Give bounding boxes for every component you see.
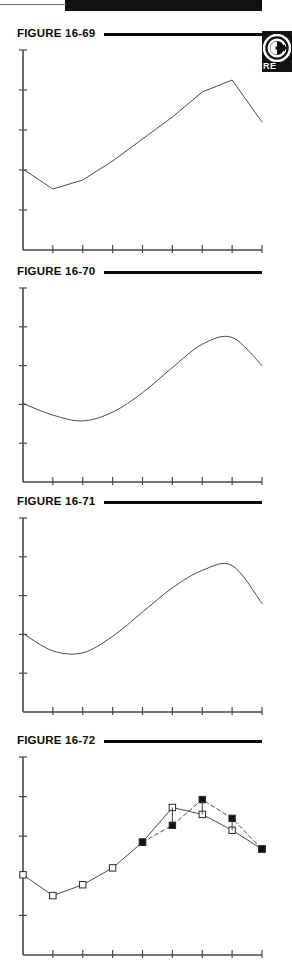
figure-header: FIGURE 16-69 — [17, 26, 292, 42]
circle-arrow-icon — [263, 34, 291, 62]
plot-canvas — [0, 512, 292, 730]
figure-plot — [0, 751, 292, 960]
figure-rule — [104, 740, 262, 743]
series-line — [23, 80, 262, 189]
series-line — [23, 807, 262, 895]
figure-label: FIGURE 16-70 — [17, 266, 95, 278]
plot-canvas — [0, 751, 292, 960]
data-point-open-square — [109, 865, 115, 871]
figure-rule — [104, 501, 262, 504]
series-line — [23, 563, 262, 654]
figure-block: FIGURE 16-72 — [0, 733, 292, 960]
figure-plot — [0, 282, 292, 500]
figure-header: FIGURE 16-71 — [17, 494, 292, 510]
figure-plot — [0, 512, 292, 730]
figure-header: FIGURE 16-72 — [17, 733, 292, 749]
figure-block: FIGURE 16-71 — [0, 494, 292, 730]
figure-rule — [104, 271, 262, 274]
figure-block: FIGURE 16-69 — [0, 26, 292, 268]
corner-badge: RE — [262, 31, 292, 72]
data-point-open-square — [20, 872, 26, 878]
data-point-open-square — [80, 882, 86, 888]
plot-canvas — [0, 44, 292, 268]
data-point-open-square — [50, 892, 56, 898]
series-line — [23, 336, 262, 421]
figure-label: FIGURE 16-72 — [17, 735, 95, 747]
data-point-filled-square — [139, 839, 145, 845]
page-edge-black-bar — [65, 0, 262, 11]
badge-label: RE — [263, 61, 277, 71]
page-edge-hairline — [0, 4, 66, 5]
figure-block: FIGURE 16-70 — [0, 264, 292, 500]
figure-rule — [104, 33, 262, 36]
data-point-filled-square — [259, 846, 265, 852]
figure-label: FIGURE 16-71 — [17, 496, 95, 508]
figure-header: FIGURE 16-70 — [17, 264, 292, 280]
plot-canvas — [0, 282, 292, 500]
figure-label: FIGURE 16-69 — [17, 28, 95, 40]
figure-plot — [0, 44, 292, 268]
